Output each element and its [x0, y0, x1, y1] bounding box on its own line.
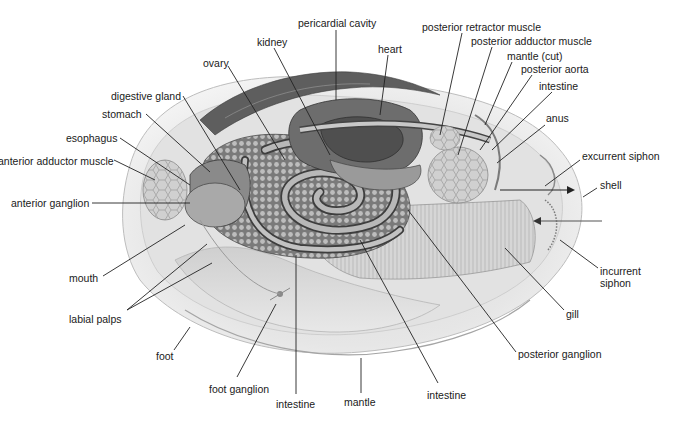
label-heart: heart	[378, 43, 402, 55]
label-mantle: mantle	[344, 396, 376, 408]
label-labial-palps: labial palps	[69, 313, 122, 325]
label-mantle-cut: mantle (cut)	[507, 50, 562, 62]
label-foot: foot	[156, 350, 174, 362]
label-foot-ganglion: foot ganglion	[209, 383, 269, 395]
label-esophagus: esophagus	[66, 132, 117, 144]
label-intestine-lower-left: intestine	[276, 398, 315, 410]
label-excurrent-siphon: excurrent siphon	[582, 150, 660, 162]
label-anterior-ganglion: anterior ganglion	[11, 197, 89, 209]
anterior-adductor-muscle	[143, 160, 187, 220]
label-posterior-adductor-muscle: posterior adductor muscle	[471, 35, 592, 47]
label-mouth: mouth	[69, 272, 98, 284]
clam-anatomy-diagram: pericardial cavity kidney heart ovary di…	[0, 0, 679, 424]
label-posterior-ganglion: posterior ganglion	[518, 348, 601, 360]
label-anterior-adductor-muscle: anterior adductor muscle	[0, 155, 114, 167]
label-kidney: kidney	[257, 36, 287, 48]
label-pericardial-cavity: pericardial cavity	[298, 17, 376, 29]
digestive-gland	[185, 183, 245, 227]
posterior-adductor-muscle	[428, 147, 488, 203]
label-shell: shell	[600, 179, 622, 191]
label-gill: gill	[566, 308, 579, 320]
label-ovary: ovary	[203, 57, 229, 69]
label-digestive-gland: digestive gland	[111, 90, 181, 102]
posterior-retractor-muscle	[430, 126, 460, 150]
label-incurrent-siphon: incurrent siphon	[600, 265, 641, 289]
label-stomach: stomach	[102, 108, 142, 120]
label-posterior-retractor-muscle: posterior retractor muscle	[422, 21, 541, 33]
label-intestine-upper: intestine	[539, 80, 578, 92]
label-anus: anus	[546, 112, 569, 124]
label-intestine-lower-right: intestine	[427, 389, 466, 401]
label-posterior-aorta: posterior aorta	[521, 63, 589, 75]
